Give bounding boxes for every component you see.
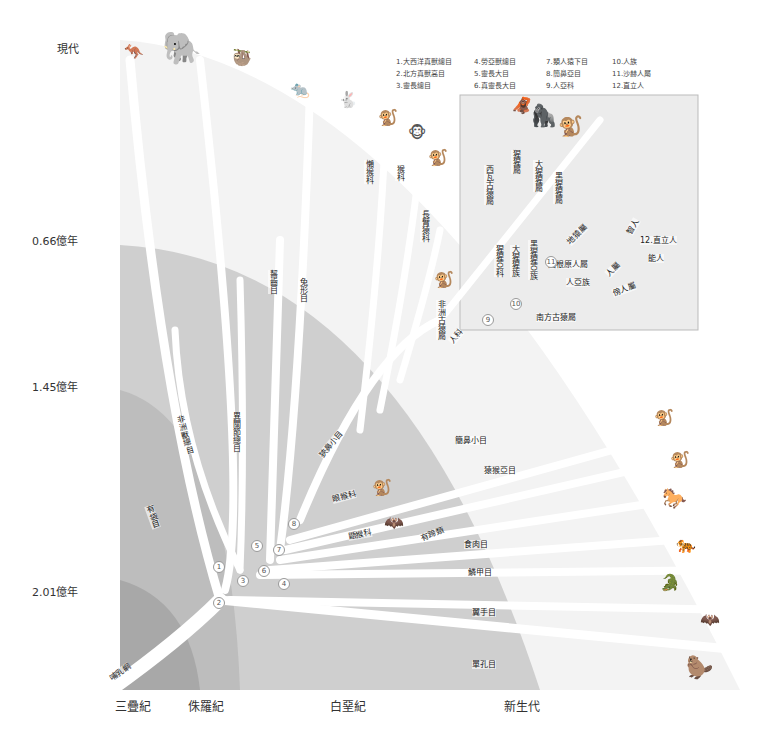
colugo-icon: 🦇	[384, 515, 404, 531]
node-number: 4	[278, 578, 290, 590]
label-haplorhini: 簡鼻小目	[455, 436, 487, 445]
label-pholidota: 鱗甲目	[468, 568, 492, 577]
gibbon-icon: 🐒	[428, 150, 448, 166]
label-hominina: 人亞族	[566, 278, 590, 287]
label-strepsirrhini: 猿猴亞目	[484, 466, 516, 475]
time-label-201ma: 2.01億年	[32, 583, 79, 599]
legend: 1.大西洋真獸總目 4.勞亞獸總目 7.類人猿下目 10.人族 2.北方真獸高目…	[396, 56, 672, 92]
era-label-triassic: 三疊紀	[115, 697, 151, 714]
tarsier-icon: 🐒	[372, 480, 392, 496]
legend-item: 9.人亞科	[546, 80, 612, 92]
label-lagomorpha: 兔形目	[298, 278, 307, 302]
loris-icon: 🐒	[378, 110, 398, 126]
lemur-icon: 🐒	[654, 410, 674, 426]
era-label-jurassic: 侏羅紀	[188, 697, 224, 714]
node-number: 8	[288, 518, 300, 530]
legend-item: 2.北方真獸高目	[396, 68, 474, 80]
elephant-icon: 🐘	[162, 40, 202, 56]
label-gorilla: 大猩猩屬	[533, 160, 542, 192]
label-gorillini: 大猩猩族	[510, 245, 519, 277]
legend-item: 12.直立人	[612, 80, 672, 92]
node-number: 7	[273, 544, 285, 556]
era-label-cretaceous: 白堊紀	[330, 697, 366, 714]
label-monotremata: 單孔目	[472, 660, 496, 669]
rabbit-icon: 🐇	[338, 92, 358, 108]
era-label-cenozoic: 新生代	[504, 697, 540, 714]
legend-item: 3.靈長總目	[396, 80, 474, 92]
node-number: 1	[213, 561, 225, 573]
legend-item: 8.簡鼻亞目	[546, 68, 612, 80]
legend-item: 10.人族	[612, 56, 672, 68]
label-panina: 黑猩猩亞族	[528, 240, 537, 280]
chimpanzee-icon: 🐒	[558, 118, 583, 134]
label-hylobatidae: 長臂猿科	[420, 210, 429, 242]
node-number: 6	[258, 565, 270, 577]
node-number: 10	[510, 298, 522, 310]
label-pan: 黑猩猩屬	[553, 172, 562, 204]
legend-item: 11.沙赫人屬	[612, 68, 672, 80]
legend-item: 7.類人猿下目	[546, 56, 612, 68]
horse-icon: 🐎	[662, 490, 687, 506]
kangaroo-icon: 🦘	[124, 44, 144, 60]
label-carnivora: 食肉目	[464, 540, 488, 549]
label-proconsul: 非洲古猿屬	[436, 300, 445, 340]
node-number: 9	[482, 314, 494, 326]
label-chiroptera: 翼手目	[472, 608, 496, 617]
bat-icon: 🦇	[700, 612, 720, 628]
label-cercopithecidae: 猴科	[395, 165, 404, 181]
rat-icon: 🐀	[290, 82, 310, 98]
label-lorisidae: 懶猴科	[364, 160, 373, 184]
label-pongo: 猩猩屬	[511, 150, 520, 174]
legend-item: 5.靈長大目	[474, 68, 546, 80]
label-habilis: 能人	[648, 254, 664, 263]
label-australopithecus: 南方古猿屬	[536, 313, 576, 322]
node-number: 3	[237, 575, 249, 587]
legend-item: 6.真靈長大目	[474, 80, 546, 92]
meerkat-icon: 🐒	[670, 452, 690, 468]
gorilla-icon: 🦍	[530, 108, 557, 124]
proconsul-icon: 🐒	[434, 272, 454, 288]
time-label-145ma: 1.45億年	[32, 378, 79, 394]
sloth-icon: 🦥	[232, 50, 252, 66]
platypus-icon: 🦫	[686, 660, 713, 676]
label-xenarthra: 異關節總目	[231, 412, 240, 452]
time-label-66ma: 0.66億年	[32, 232, 79, 248]
label-erectus: 12.直立人	[640, 236, 677, 245]
label-sivapithecus: 西瓦古猿屬	[484, 165, 493, 205]
legend-item: 4.勞亞獸總目	[474, 56, 546, 68]
pangolin-icon: 🐊	[660, 575, 680, 591]
label-rodentia: 齧齒目	[268, 270, 277, 294]
monkey-icon: 🐵	[408, 125, 427, 141]
orangutan-icon: 🦧	[512, 98, 532, 114]
node-number: 2	[213, 597, 225, 609]
time-label-present: 現代	[57, 40, 79, 56]
legend-item: 1.大西洋真獸總目	[396, 56, 474, 68]
node-number: 11	[545, 256, 557, 268]
node-number: 5	[251, 540, 263, 552]
tiger-icon: 🐅	[676, 537, 696, 553]
label-ponginae: 猩猩亞科	[494, 245, 503, 277]
